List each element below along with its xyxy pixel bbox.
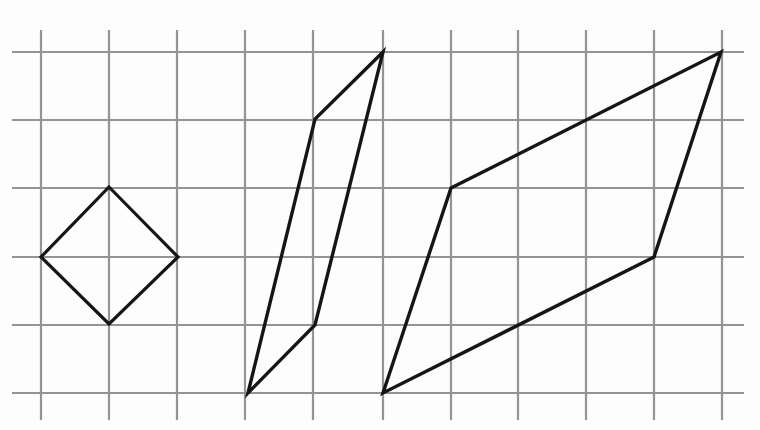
narrow-parallelogram	[248, 52, 383, 393]
square-grid	[12, 30, 744, 420]
geometry-figure	[0, 0, 760, 430]
figure-canvas	[0, 0, 760, 430]
wide-parallelogram	[383, 52, 721, 393]
quadrilaterals-group	[41, 52, 721, 393]
